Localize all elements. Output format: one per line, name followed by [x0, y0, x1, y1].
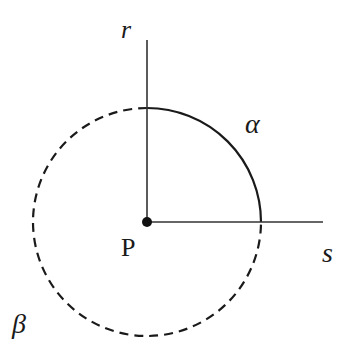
solid-arc-alpha [147, 108, 261, 222]
label-r: r [121, 15, 132, 44]
label-s: s [322, 237, 333, 268]
label-alpha: α [245, 108, 261, 139]
diagram-canvas: r α P s β [0, 0, 350, 357]
label-p: P [121, 233, 135, 262]
point-p-dot [142, 217, 152, 227]
label-beta: β [11, 308, 26, 339]
